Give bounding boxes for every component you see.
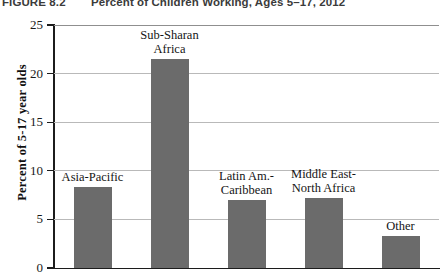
gridline-20 — [54, 73, 439, 74]
gridline-15 — [54, 122, 439, 123]
bar — [228, 200, 266, 268]
y-tick-mark-15 — [47, 122, 54, 123]
y-tick-label: 25 — [13, 17, 43, 33]
y-tick-mark-5 — [47, 219, 54, 220]
bar-category-label: Sub-Sharan Africa — [115, 28, 225, 56]
figure-caption: FIGURE 8.2 Percent of Children Working, … — [0, 0, 447, 10]
y-axis-line — [53, 24, 55, 269]
bar-category-label: Asia-Pacific — [38, 170, 148, 184]
y-tick-label: 5 — [13, 211, 43, 227]
bar-category-label: Middle East- North Africa — [269, 167, 379, 195]
y-tick-mark-0 — [47, 267, 54, 268]
bar — [305, 198, 343, 268]
gridline-25 — [54, 25, 439, 26]
bar — [382, 236, 420, 268]
y-tick-label: 0 — [13, 260, 43, 276]
figure-title: Percent of Children Working, Ages 5–17, … — [91, 0, 345, 8]
y-tick-mark-25 — [47, 24, 54, 25]
bar-category-label: Other — [346, 219, 447, 233]
figure-number: FIGURE 8.2 — [2, 0, 66, 8]
y-tick-label: 20 — [13, 66, 43, 82]
y-tick-label: 15 — [13, 114, 43, 130]
bar — [74, 187, 112, 268]
bar — [151, 59, 189, 268]
y-tick-mark-20 — [47, 73, 54, 74]
